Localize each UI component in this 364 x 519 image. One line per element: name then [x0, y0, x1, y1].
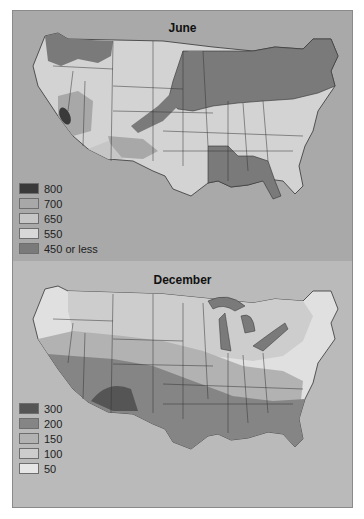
legend-swatch [19, 198, 39, 209]
legend-label: 100 [44, 448, 62, 460]
legend-item: 50 [19, 461, 62, 476]
december-title: December [13, 273, 352, 287]
december-map-panel: December 300 200 150 100 50 [13, 261, 352, 507]
december-us-map [13, 261, 354, 507]
legend-swatch [19, 213, 39, 224]
legend-label: 150 [44, 433, 62, 445]
legend-item: 150 [19, 431, 62, 446]
legend-swatch [19, 228, 39, 239]
legend-item: 800 [19, 181, 98, 196]
legend-label: 450 or less [44, 243, 98, 255]
legend-item: 200 [19, 416, 62, 431]
legend-label: 700 [44, 198, 62, 210]
legend-label: 300 [44, 403, 62, 415]
legend-label: 650 [44, 213, 62, 225]
legend-swatch [19, 433, 39, 444]
legend-item: 100 [19, 446, 62, 461]
june-map-panel: June 800 700 650 550 450 or less [13, 11, 352, 261]
june-legend: 800 700 650 550 450 or less [19, 181, 98, 256]
december-legend: 300 200 150 100 50 [19, 401, 62, 476]
legend-item: 450 or less [19, 241, 98, 256]
legend-label: 200 [44, 418, 62, 430]
legend-item: 700 [19, 196, 98, 211]
figure-frame: June 800 700 650 550 450 or less [12, 10, 353, 508]
legend-swatch [19, 243, 39, 254]
legend-item: 550 [19, 226, 98, 241]
legend-item: 650 [19, 211, 98, 226]
legend-swatch [19, 463, 39, 474]
legend-swatch [19, 403, 39, 414]
legend-item: 300 [19, 401, 62, 416]
legend-label: 550 [44, 228, 62, 240]
legend-label: 800 [44, 183, 62, 195]
legend-swatch [19, 183, 39, 194]
june-title: June [13, 21, 352, 35]
legend-label: 50 [44, 463, 56, 475]
legend-swatch [19, 418, 39, 429]
legend-swatch [19, 448, 39, 459]
